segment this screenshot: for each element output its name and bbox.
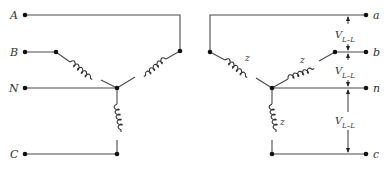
wire-c [272, 140, 366, 154]
voltage-label-nc: V L–L [335, 115, 355, 130]
wire-A [25, 15, 180, 51]
terminal-n [364, 86, 369, 91]
label-A: A [9, 9, 18, 22]
terminal-B [23, 50, 28, 55]
neutral-junction-dot [270, 86, 275, 91]
coil-B-icon [67, 59, 95, 80]
junction-dot [178, 49, 183, 54]
terminal-A [23, 13, 28, 18]
terminal-c [364, 152, 369, 157]
coil-A-icon [140, 56, 168, 77]
impedance-label: z [279, 117, 285, 127]
arrow-up-icon [346, 89, 350, 94]
label-b: b [373, 46, 380, 59]
coil-c-icon [269, 104, 277, 132]
wire-B [25, 52, 70, 62]
label-a: a [373, 9, 380, 22]
wire-C [25, 140, 117, 154]
terminal-C [23, 152, 28, 157]
label-N: N [8, 82, 19, 95]
coil-C-icon [114, 104, 122, 132]
junction-dot [208, 50, 213, 55]
impedance-label: z [299, 55, 305, 65]
voltage-label-bn: V L–L [335, 65, 355, 80]
coil-b-icon [287, 62, 315, 83]
junction-dot [333, 50, 338, 55]
arrow-down-icon [346, 148, 350, 153]
arrow-up-icon [346, 53, 350, 58]
primary-wye: A B N C [8, 9, 182, 161]
label-n: n [373, 82, 380, 95]
arrow-up-icon [346, 16, 350, 21]
voltage-label-ab: V L–L [335, 29, 355, 44]
junction-dot [54, 50, 59, 55]
wire-b [319, 52, 366, 61]
svg-text:L–L: L–L [341, 36, 355, 44]
secondary-wye: z z z V L–L V L–L [208, 9, 380, 161]
neutral-junction-dot [115, 86, 120, 91]
svg-text:L–L: L–L [341, 122, 355, 130]
wire-a [210, 15, 366, 52]
arrow-down-icon [346, 82, 350, 87]
wye-connection-diagram: A B N C z z z [0, 0, 389, 172]
terminal-a [364, 13, 369, 18]
impedance-label: z [244, 53, 250, 63]
terminal-b [364, 50, 369, 55]
svg-text:L–L: L–L [341, 72, 355, 80]
terminal-N [23, 86, 28, 91]
label-C: C [10, 148, 19, 161]
junction-dot [115, 152, 120, 157]
label-c: c [373, 148, 379, 161]
label-B: B [9, 46, 18, 59]
junction-dot [270, 152, 275, 157]
arrow-down-icon [346, 46, 350, 51]
